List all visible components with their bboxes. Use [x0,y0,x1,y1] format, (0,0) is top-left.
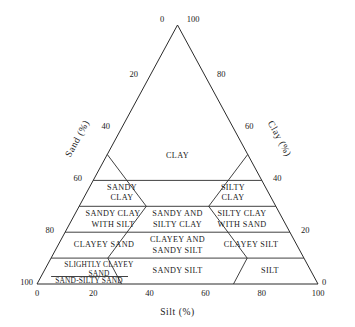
region-label-clayey-and-sandy-silt-line2: SANDY SILT [153,246,203,255]
region-label-slightly-clayey-sand-line1: SLIGHTLY CLAYEY [64,260,134,269]
apex-tick-left: 0 [160,14,164,24]
region-label-silty-clay-with-sand-line1: SILTY CLAY [217,209,266,218]
region-label-clay: CLAY [166,151,189,160]
soil-classification-ternary-chart: 0 100 20 40 60 80 100 80 60 40 20 0 0 20… [0,0,355,327]
bottom-tick-60: 60 [201,288,210,298]
region-label-sandy-clay-line2: CLAY [111,193,134,202]
region-label-sandy-clay-line1: SANDY [107,183,137,192]
region-label-silty-clay-line1: SILTY [221,183,245,192]
division-line-right-oblique-c [234,258,248,284]
region-label-sand-silty-sand: SAND-SILTY SAND [55,276,123,285]
left-tick-60: 60 [74,173,83,183]
right-tick-60: 60 [245,121,254,131]
right-tick-80: 80 [217,69,226,79]
left-tick-40: 40 [102,121,111,131]
region-label-clayey-sand: CLAYEY SAND [74,240,134,249]
left-axis-title: Sand (%) [63,118,92,159]
left-tick-80: 80 [46,225,55,235]
right-tick-0: 0 [322,277,326,287]
region-label-clayey-and-sandy-silt-line1: CLAYEY AND [150,235,205,244]
region-label-clayey-silt: CLAYEY SILT [224,240,279,249]
right-tick-40: 40 [273,173,282,183]
region-label-sandy-and-silty-clay-line2: SILTY CLAY [153,220,202,229]
bottom-tick-20: 20 [89,288,98,298]
bottom-tick-0: 0 [35,288,39,298]
region-label-silt: SILT [261,266,279,275]
right-tick-20: 20 [301,225,310,235]
region-label-silty-clay-with-sand-line2: WITH SAND [218,220,267,229]
bottom-tick-40: 40 [145,288,154,298]
region-label-sandy-and-silty-clay-line1: SANDY AND [152,209,202,218]
region-label-silty-clay-line2: CLAY [222,193,245,202]
left-tick-100: 100 [20,277,33,287]
region-label-sandy-clay-with-silt-line1: SANDY CLAY [86,209,141,218]
region-label-sandy-clay-with-silt-line2: WITH SILT [91,220,134,229]
apex-tick-right: 100 [187,14,200,24]
ternary-diagram-root: 0 100 20 40 60 80 100 80 60 40 20 0 0 20… [0,0,355,327]
left-tick-20: 20 [130,69,139,79]
right-axis-title: Clay (%) [265,119,293,159]
bottom-axis-title: Silt (%) [160,307,195,318]
bottom-tick-100: 100 [312,288,325,298]
region-label-sandy-silt: SANDY SILT [153,266,203,275]
bottom-tick-80: 80 [258,288,267,298]
